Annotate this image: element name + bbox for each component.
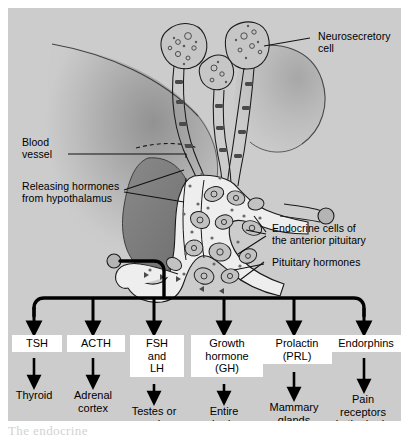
- target-entire-body: Entire body: [194, 405, 254, 421]
- label-releasing-hormones: Releasing hormones from hypothalamus: [22, 180, 119, 205]
- hormone-box-fsh-lh: FSH and LH: [130, 335, 184, 377]
- figure-caption-fragment: The endocrine: [8, 423, 401, 443]
- target-testes-ovaries: Testes or ovaries: [118, 405, 190, 421]
- label-pituitary-hormones: Pituitary hormones: [272, 256, 360, 268]
- target-adrenal-cortex: Adrenal cortex: [61, 389, 125, 414]
- endocrine-system-figure: Neurosecretory cell Blood vessel Releasi…: [0, 0, 409, 443]
- target-thyroid: Thyroid: [8, 389, 64, 402]
- label-endocrine-cells: Endocrine cells of the anterior pituitar…: [272, 222, 366, 247]
- bus-to-hormone-arrows: [28, 298, 370, 334]
- hormone-box-prolactin: Prolactin (PRL): [262, 335, 332, 364]
- hormone-box-acth: ACTH: [67, 335, 125, 352]
- hormone-box-tsh: TSH: [12, 335, 62, 352]
- label-blood-vessel: Blood vessel: [22, 136, 52, 161]
- target-mammary-glands: Mammary glands (in mammals): [252, 401, 336, 421]
- label-neurosecretory-cell: Neurosecretory cell: [318, 30, 390, 55]
- illustration-panel: Neurosecretory cell Blood vessel Releasi…: [8, 8, 401, 421]
- target-pain-receptors: Pain receptors in the brain: [326, 393, 400, 421]
- hormone-box-endorphins: Endorphins: [329, 335, 401, 352]
- hormone-box-growth-hormone: Growth hormone (GH): [191, 335, 263, 377]
